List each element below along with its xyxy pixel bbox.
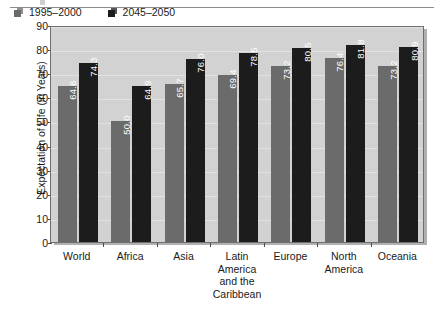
bar-group: 65.776.0	[158, 59, 211, 242]
bar-value-label: 69.4	[227, 69, 238, 88]
bar-value-label: 81.8	[355, 39, 366, 58]
y-axis-tick-label: 60	[26, 93, 48, 103]
bar: 65.7	[165, 84, 184, 242]
x-axis-category-label: Oceania	[365, 250, 430, 263]
bar-value-label: 76.0	[195, 53, 206, 72]
bar: 64.6	[58, 86, 77, 242]
y-axis: Expectation of Life (in Years) 908070605…	[22, 26, 48, 243]
legend-swatch-icon-series-1	[14, 8, 23, 17]
y-axis-tick-label: 70	[26, 69, 48, 79]
x-axis-category-label-line: America	[311, 263, 376, 276]
legend-label-series-2: 2045–2050	[123, 6, 176, 18]
bar: 78.5	[239, 53, 258, 242]
bar-value-label: 80.9	[409, 41, 420, 60]
bar-value-label: 78.5	[248, 47, 259, 66]
bar: 73.2	[378, 66, 397, 242]
legend-swatch-icon-series-2	[108, 8, 117, 17]
bar-group: 76.481.8	[318, 45, 371, 242]
y-axis-tick-label: 0	[26, 238, 48, 248]
bar: 80.9	[399, 47, 418, 242]
bar: 80.5	[292, 48, 311, 242]
bar: 73.2	[271, 66, 290, 242]
bar: 81.8	[346, 45, 365, 242]
x-axis-category-label-line: Oceania	[365, 250, 430, 263]
bar-group: 69.478.5	[211, 53, 264, 242]
bar: 74.3	[79, 63, 98, 242]
legend-item-series-1: 1995–2000	[14, 6, 82, 18]
plot-area: 64.674.350.064.965.776.069.478.573.280.5…	[50, 26, 424, 243]
bar: 76.4	[325, 58, 344, 242]
x-axis-category-label-line: America	[204, 263, 269, 276]
y-axis-tick-label: 10	[26, 214, 48, 224]
bar: 76.0	[186, 59, 205, 242]
bar-value-label: 80.5	[302, 42, 313, 61]
page-text-remnant	[40, 0, 45, 5]
legend-item-series-2: 2045–2050	[108, 6, 176, 18]
x-axis-tick-mark	[317, 243, 318, 247]
y-axis-tick-label: 20	[26, 190, 48, 200]
y-axis-tick-label: 90	[26, 21, 48, 31]
bar-value-label: 50.0	[121, 116, 132, 135]
x-axis-tick-mark	[371, 243, 372, 247]
bar-value-label: 73.2	[281, 60, 292, 79]
bar: 64.9	[132, 86, 151, 242]
x-axis-tick-mark	[157, 243, 158, 247]
x-axis-category-label-line: Caribbean	[204, 288, 269, 301]
bar-group: 73.280.5	[265, 48, 318, 242]
y-axis-tick-label: 30	[26, 166, 48, 176]
bar-group: 73.280.9	[372, 47, 424, 242]
bar-group: 64.674.3	[51, 63, 104, 242]
legend: 1995–2000 2045–2050	[14, 6, 175, 18]
x-axis-tick-mark	[103, 243, 104, 247]
bar-value-label: 64.6	[67, 81, 78, 100]
bar-value-label: 73.2	[388, 60, 399, 79]
bar: 69.4	[218, 75, 237, 242]
figure-chart-life-expectancy: Expectation of Life (in Years) 908070605…	[0, 0, 442, 313]
legend-label-series-1: 1995–2000	[29, 6, 82, 18]
bars-layer: 64.674.350.064.965.776.069.478.573.280.5…	[51, 27, 423, 242]
x-axis-tick-mark	[264, 243, 265, 247]
x-axis-category-label-line: and the	[204, 275, 269, 288]
y-axis-tick-label: 40	[26, 142, 48, 152]
bar-group: 50.064.9	[104, 86, 157, 242]
y-axis-tick-label: 80	[26, 45, 48, 55]
y-axis-tick-label: 50	[26, 117, 48, 127]
bar: 50.0	[111, 121, 130, 242]
bar-value-label: 65.7	[174, 78, 185, 97]
y-axis-tick-mark	[48, 243, 52, 244]
bar-value-label: 64.9	[142, 80, 153, 99]
bar-value-label: 76.4	[334, 52, 345, 71]
x-axis-tick-mark	[210, 243, 211, 247]
bar-value-label: 74.3	[88, 57, 99, 76]
